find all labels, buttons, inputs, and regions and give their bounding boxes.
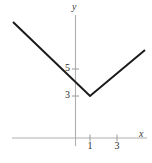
- x-tick-label-1: 1: [85, 141, 95, 151]
- plot-canvas: [0, 0, 152, 163]
- graph-figure: y x 5 3 1 3: [0, 0, 152, 163]
- y-tick-label-3: 3: [62, 90, 70, 100]
- y-tick-label-5: 5: [62, 63, 70, 73]
- absolute-value-curve: [13, 22, 145, 96]
- y-axis-label: y: [72, 2, 76, 12]
- x-axis-label: x: [139, 129, 143, 139]
- x-tick-label-3: 3: [112, 141, 122, 151]
